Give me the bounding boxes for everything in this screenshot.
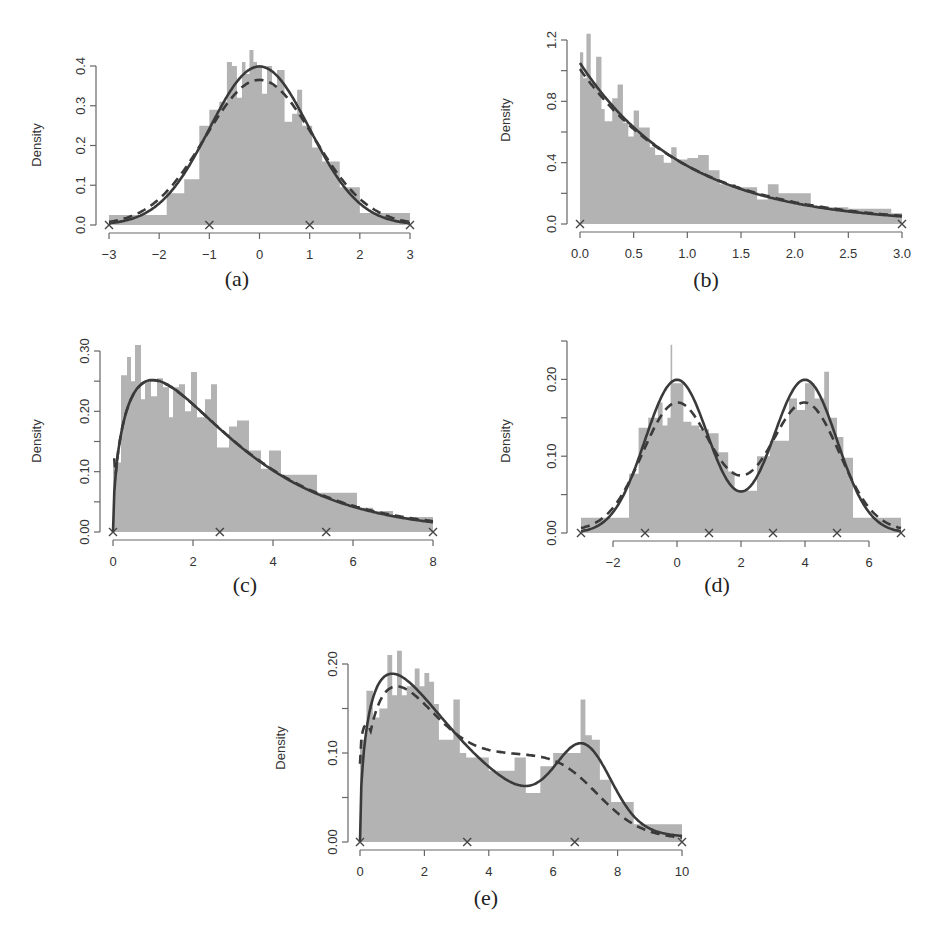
x-axis: −20246 (606, 541, 873, 570)
y-tick-label: 1.2 (544, 31, 559, 49)
x-axis: 0246810 (356, 850, 689, 879)
x-tick-label: −2 (152, 247, 167, 262)
x-tick-label: 2 (189, 554, 196, 569)
panel-caption: (e) (474, 885, 498, 910)
y-axis: 0.000.100.200.30 (77, 338, 100, 544)
x-axis: 02468 (109, 540, 436, 569)
panel-b: 0.00.40.81.2 0.00.51.01.52.02.53.0 Densi… (498, 31, 911, 292)
x-tick-label: 1.0 (678, 246, 696, 261)
x-tick-label: 4 (269, 554, 276, 569)
x-tick-label: 10 (675, 864, 689, 879)
y-axis: 0.000.100.20 (544, 341, 567, 546)
x-tick-label: 0 (256, 247, 263, 262)
x-tick-label: −1 (202, 247, 217, 262)
histogram (581, 345, 901, 533)
x-tick-label: 8 (614, 864, 621, 879)
x-tick-label: 1 (306, 247, 313, 262)
panel-caption: (c) (233, 572, 257, 597)
y-tick-label: 0.0 (544, 215, 559, 233)
x-axis: 0.00.51.01.52.02.53.0 (571, 232, 911, 261)
x-tick-label: 2.5 (839, 246, 857, 261)
figure-canvas: 0.00.10.20.30.4 −3−2−10123 Density (a) 0… (0, 0, 943, 933)
y-tick-label: 0.4 (73, 57, 88, 75)
histogram-bars (360, 651, 682, 842)
panel-d: 0.000.100.20 −20246 Density (d) (498, 341, 905, 597)
x-tick-label: 0.0 (571, 246, 589, 261)
x-tick-label: 2 (356, 247, 363, 262)
x-tick-label: 3 (406, 247, 413, 262)
x-tick-label: 2 (737, 555, 744, 570)
y-tick-label: 0.00 (544, 520, 559, 545)
y-tick-label: 0.00 (77, 519, 92, 544)
x-tick-label: 4 (485, 864, 492, 879)
y-tick-label: 0.10 (325, 740, 340, 765)
y-tick-label: 0.2 (73, 136, 88, 154)
x-tick-label: 6 (550, 864, 557, 879)
y-axis: 0.00.40.81.2 (544, 31, 567, 233)
x-tick-label: −3 (102, 247, 117, 262)
panel-caption: (d) (704, 572, 730, 597)
histogram (113, 345, 433, 532)
y-tick-label: 0.0 (73, 216, 88, 234)
x-tick-label: 0.5 (625, 246, 643, 261)
y-axis-label: Density (498, 98, 513, 142)
x-axis: −3−2−10123 (102, 233, 414, 262)
panel-a: 0.00.10.20.30.4 −3−2−10123 Density (a) (29, 50, 414, 291)
x-tick-label: 0 (673, 555, 680, 570)
histogram (360, 651, 682, 842)
y-tick-label: 0.4 (544, 154, 559, 172)
panel-caption: (a) (225, 266, 249, 291)
histogram-bars (113, 345, 433, 532)
panel-c: 0.000.100.200.30 02468 Density (c) (29, 338, 437, 597)
y-axis: 0.000.100.20 (325, 651, 348, 854)
x-tick-label: 2 (421, 864, 428, 879)
y-tick-label: 0.10 (544, 444, 559, 469)
y-tick-label: 0.1 (73, 176, 88, 194)
histogram-bars (580, 34, 902, 224)
panel-caption: (b) (693, 267, 719, 292)
x-tick-label: 0 (109, 554, 116, 569)
histogram (109, 50, 410, 225)
histogram (580, 34, 902, 224)
x-tick-label: 4 (801, 555, 808, 570)
y-tick-label: 0.10 (77, 459, 92, 484)
histogram-bars (581, 345, 901, 533)
y-tick-label: 0.20 (544, 367, 559, 392)
x-tick-label: 8 (429, 554, 436, 569)
x-tick-label: 6 (349, 554, 356, 569)
x-tick-label: −2 (606, 555, 621, 570)
histogram-bars (109, 50, 410, 225)
x-tick-label: 6 (865, 555, 872, 570)
x-tick-label: 1.5 (732, 246, 750, 261)
y-tick-label: 0.20 (77, 399, 92, 424)
y-tick-label: 0.20 (325, 651, 340, 676)
y-tick-label: 0.30 (77, 338, 92, 363)
y-tick-label: 0.00 (325, 829, 340, 854)
y-axis: 0.00.10.20.30.4 (73, 57, 96, 234)
panel-e: 0.000.100.20 0246810 Density (e) (273, 651, 689, 910)
x-tick-label: 3.0 (893, 246, 911, 261)
y-tick-label: 0.8 (544, 92, 559, 110)
y-tick-label: 0.3 (73, 97, 88, 115)
y-axis-label: Density (273, 726, 288, 770)
y-axis-label: Density (29, 123, 44, 167)
x-tick-label: 2.0 (786, 246, 804, 261)
y-axis-label: Density (498, 419, 513, 463)
x-tick-label: 0 (356, 864, 363, 879)
y-axis-label: Density (29, 419, 44, 463)
